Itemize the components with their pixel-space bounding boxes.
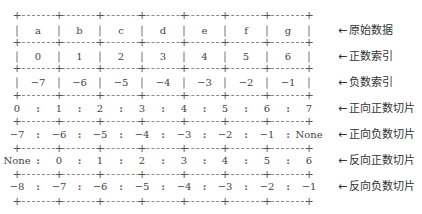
border-plus: + [179,196,188,207]
border-plus: + [95,10,104,21]
slice-colon: : [244,130,248,140]
slice-boundary-value: 1 [97,155,103,167]
cell-separator [267,78,268,89]
border-plus: + [179,143,188,154]
border-plus: + [220,143,229,154]
cell-separator [17,52,18,63]
slice-boundary-value: −3 [177,129,192,141]
border-plus: + [304,90,313,101]
slicing-diagram: ++++++++++++++++++++++++++++++++++++++++… [0,0,422,214]
slice-colon: : [78,156,82,166]
cell-value: b [76,25,82,37]
slice-boundary-value: −2 [218,129,233,141]
cell-value: −4 [156,77,171,89]
slice-colon: : [161,182,165,192]
row-label-text: 正向正数切片 [349,102,415,115]
cell-value: 6 [285,51,291,63]
slice-boundary-value: None [295,129,322,141]
slice-boundary-value: −2 [260,181,275,193]
border-plus: + [95,90,104,101]
slice-boundary-value: −5 [93,129,108,141]
border-plus: + [304,143,313,154]
border-plus: + [95,63,104,74]
arrow-left-icon: ← [338,155,347,167]
border-plus: + [137,143,146,154]
slice-colon: : [244,182,248,192]
border-plus: + [12,169,21,180]
cell-separator [142,26,143,37]
arrow-left-icon: ← [338,129,347,141]
arrow-left-icon: ← [338,25,347,37]
slice-colon: : [36,104,40,114]
slice-colon: : [36,182,40,192]
border-plus: + [12,90,21,101]
border-plus: + [95,196,104,207]
cell-separator [225,52,226,63]
cell-separator [309,26,310,37]
slice-boundary-value: 4 [222,155,228,167]
border-plus: + [220,90,229,101]
slice-boundary-value: −8 [10,181,25,193]
slice-colon: : [244,104,248,114]
slice-colon: : [161,156,165,166]
cell-value: c [118,25,124,37]
slice-boundary-value: 7 [306,103,312,115]
cell-separator [59,26,60,37]
slice-boundary-value: −7 [10,129,25,141]
cell-value: f [244,25,248,37]
border-plus: + [12,143,21,154]
border-plus: + [12,63,21,74]
cell-value: 5 [243,51,249,63]
cell-separator [100,52,101,63]
slice-colon: : [78,130,82,140]
slice-boundary-value: 1 [56,103,62,115]
cell-value: a [35,25,41,37]
cell-value: 1 [76,51,82,63]
slice-boundary-value: −1 [302,181,317,193]
border-plus: + [179,10,188,21]
slice-colon: : [36,130,40,140]
border-plus: + [137,37,146,48]
cell-value: g [285,25,291,37]
border-plus: + [54,169,63,180]
slice-colon: : [119,104,123,114]
slice-boundary-value: −4 [135,129,150,141]
border-plus: + [179,63,188,74]
slice-boundary-value: 0 [14,103,20,115]
border-plus: + [54,37,63,48]
arrow-left-icon: ← [338,181,347,193]
border-plus: + [179,169,188,180]
row-label-text: 原始数据 [349,24,393,37]
cell-separator [309,52,310,63]
slice-colon: : [244,156,248,166]
cell-value: −6 [72,77,87,89]
cell-value: −5 [114,77,129,89]
row-label-text: 反向负数切片 [349,180,415,193]
border-plus: + [220,116,229,127]
border-plus: + [95,143,104,154]
cell-separator [184,26,185,37]
slice-boundary-value: 0 [56,155,62,167]
border-plus: + [262,196,271,207]
border-plus: + [95,116,104,127]
border-plus: + [137,196,146,207]
slice-colon: : [78,104,82,114]
border-plus: + [179,37,188,48]
cell-value: −2 [239,77,254,89]
cell-separator [309,78,310,89]
cell-value: d [160,25,166,37]
slice-colon: : [203,182,207,192]
cell-separator [267,26,268,37]
cell-value: 3 [160,51,166,63]
slice-boundary-value: −5 [135,181,150,193]
border-plus: + [179,116,188,127]
cell-separator [225,26,226,37]
border-plus: + [220,10,229,21]
cell-separator [184,78,185,89]
slice-boundary-value: 3 [181,155,187,167]
border-plus: + [262,10,271,21]
cell-separator [100,26,101,37]
slice-colon: : [119,156,123,166]
border-plus: + [54,10,63,21]
slice-boundary-value: −1 [260,129,275,141]
